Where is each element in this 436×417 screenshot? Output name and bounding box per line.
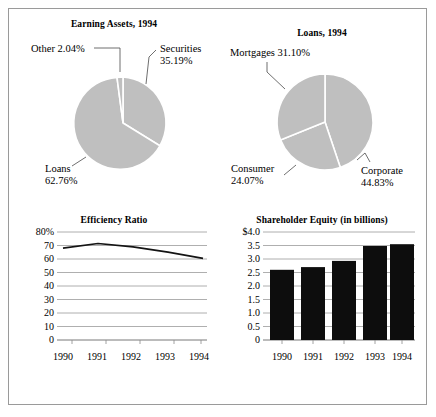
efficiency-ytick-30: 30 [24, 294, 54, 305]
efficiency-ytick-0: 0 [24, 334, 54, 345]
efficiency-ytick-50: 50 [24, 267, 54, 278]
equity-ytick-30: 3.0 [226, 253, 260, 264]
equity-ytick-20: 2.0 [226, 280, 260, 291]
efficiency-xtick-1994: 1994 [182, 351, 216, 362]
equity-ytick-4: $4.0 [226, 226, 260, 237]
chart-panel-efficiency-ratio: Efficiency Ratio [10, 206, 218, 406]
efficiency-xtick-1991: 1991 [80, 351, 114, 362]
efficiency-ytick-10: 10 [24, 321, 54, 332]
bar-1993 [363, 246, 387, 340]
leader-line-other [94, 48, 120, 72]
leader-line-loans [72, 157, 86, 166]
bar-1991 [301, 267, 325, 340]
equity-ytick-15: 1.5 [226, 294, 260, 305]
chart-panel-earning-assets: Earning Assets, 1994 Other 2.04% Securit… [10, 10, 218, 206]
equity-ytick-05: 0.5 [226, 321, 260, 332]
equity-xtick-1992: 1992 [327, 351, 361, 362]
figure-page: Earning Assets, 1994 Other 2.04% Securit… [0, 0, 436, 417]
leader-line-consumer [284, 165, 296, 175]
efficiency-ytick-40: 40 [24, 280, 54, 291]
efficiency-gridlines [57, 232, 207, 340]
equity-ytick-0: 0 [226, 334, 260, 345]
equity-xtick-1991: 1991 [296, 351, 330, 362]
efficiency-xtick-1993: 1993 [148, 351, 182, 362]
leader-line-mortgages [267, 62, 285, 89]
equity-xtick-1994: 1994 [385, 351, 419, 362]
equity-xtick-1990: 1990 [265, 351, 299, 362]
efficiency-ytick-60: 60 [24, 253, 54, 264]
leader-line-securities [146, 50, 156, 84]
loans-pie-svg [218, 10, 426, 206]
bar-1994 [390, 244, 414, 340]
earning-assets-pie-svg [10, 10, 218, 206]
efficiency-ytick-80: 80% [24, 226, 54, 237]
equity-ytick-10: 1.0 [226, 307, 260, 318]
efficiency-ytick-70: 70 [24, 240, 54, 251]
efficiency-xtick-1990: 1990 [46, 351, 80, 362]
chart-panel-loans: Loans, 1994 Mortgages 31.10% Consumer 24… [218, 10, 426, 206]
equity-ytick-25: 2.5 [226, 267, 260, 278]
efficiency-x-ticks [72, 340, 201, 344]
equity-ytick-35: 3.5 [226, 240, 260, 251]
efficiency-ytick-20: 20 [24, 307, 54, 318]
chart-panel-shareholder-equity: Shareholder Equity (in billions) [218, 206, 426, 406]
bar-1992 [332, 261, 356, 340]
bar-1990 [270, 270, 294, 340]
equity-x-ticks [282, 340, 402, 344]
efficiency-xtick-1992: 1992 [114, 351, 148, 362]
